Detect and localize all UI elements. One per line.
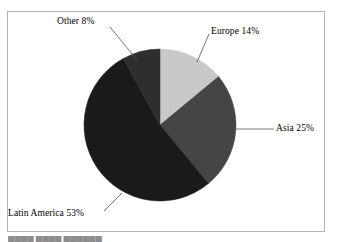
leader-line-latin-america	[104, 193, 122, 211]
cut-off-caption-text: ████ ████ ██████	[8, 236, 188, 242]
pie-label-latin-america: Latin America 53%	[8, 208, 84, 219]
leader-line-other	[110, 27, 137, 60]
pie-label-other: Other 8%	[57, 16, 94, 27]
pie-label-europe: Europe 14%	[211, 26, 259, 37]
pie-label-asia: Asia 25%	[276, 123, 314, 134]
leader-line-europe	[197, 34, 209, 62]
pie-slices-group	[84, 49, 236, 201]
